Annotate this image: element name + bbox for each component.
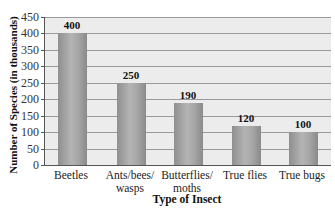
bar [58, 33, 87, 165]
x-axis-label: Type of Insect [44, 193, 330, 205]
gridline [45, 33, 331, 34]
y-tick-label: 250 [13, 75, 39, 90]
tick-mark [41, 132, 45, 133]
bar-value-label: 190 [168, 89, 208, 101]
x-category-label: Ants/bees/wasps [98, 169, 162, 195]
tick-mark [41, 165, 45, 166]
tick-mark [41, 50, 45, 51]
tick-mark [41, 17, 45, 18]
gridline [45, 83, 331, 84]
tick-mark [41, 116, 45, 117]
x-category-label: True flies [213, 169, 277, 182]
tick-mark [41, 83, 45, 84]
x-category-label: Beetles [39, 169, 103, 182]
bar [289, 132, 318, 165]
x-category-label: Butterflies/moths [155, 169, 219, 195]
tick-mark [41, 99, 45, 100]
y-tick-label: 350 [13, 42, 39, 57]
bar [232, 126, 261, 165]
bar [117, 83, 146, 165]
bar-value-label: 250 [111, 69, 151, 81]
y-tick-label: 0 [13, 158, 39, 173]
tick-mark [41, 66, 45, 67]
y-tick-label: 50 [13, 141, 39, 156]
bar-value-label: 100 [283, 118, 323, 130]
tick-mark [41, 149, 45, 150]
y-tick-label: 150 [13, 108, 39, 123]
gridline [45, 66, 331, 67]
tick-mark [41, 33, 45, 34]
bar-value-label: 120 [226, 112, 266, 124]
bar [174, 103, 203, 165]
x-category-label: True bugs [270, 169, 334, 182]
y-tick-label: 100 [13, 125, 39, 140]
y-tick-label: 400 [13, 26, 39, 41]
y-tick-label: 200 [13, 92, 39, 107]
plot-area: 400250190120100 [44, 17, 331, 166]
y-tick-label: 300 [13, 59, 39, 74]
bar-value-label: 400 [52, 19, 92, 31]
gridline [45, 17, 331, 18]
gridline [45, 50, 331, 51]
y-tick-label: 450 [13, 10, 39, 25]
